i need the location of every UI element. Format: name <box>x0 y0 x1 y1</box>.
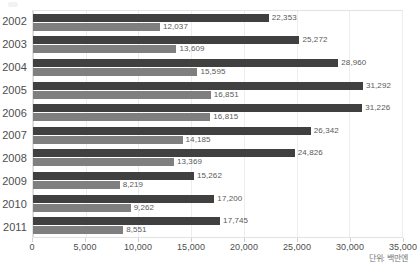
bar-value-label: 28,960 <box>341 59 366 67</box>
value-tick-label: 0 <box>29 242 34 252</box>
bar-row: 22,353 <box>33 14 402 22</box>
bar <box>33 91 211 99</box>
bar-value-label: 12,037 <box>163 23 188 31</box>
bar-value-label: 24,826 <box>298 149 323 157</box>
bar-value-label: 31,226 <box>365 104 390 112</box>
bar <box>33 136 183 144</box>
bar <box>33 14 269 22</box>
bar-group: 22,35312,037 <box>33 11 402 34</box>
bar <box>33 23 160 31</box>
category-tick-label: 2003 <box>0 33 32 56</box>
bar-row: 14,185 <box>33 136 402 144</box>
bar-value-label: 25,272 <box>302 36 327 44</box>
bar-value-label: 31,292 <box>366 82 391 90</box>
bar-row: 9,262 <box>33 204 402 212</box>
bar <box>33 127 311 135</box>
bar-group: 26,34214,185 <box>33 124 402 147</box>
bar-group: 31,29216,851 <box>33 79 402 102</box>
value-tick-label: 30,000 <box>336 242 364 252</box>
bar-value-label: 9,262 <box>134 204 155 212</box>
bar <box>33 68 197 76</box>
bar-value-label: 22,353 <box>272 14 297 22</box>
bar-value-label: 17,745 <box>223 217 248 225</box>
bar-row: 13,609 <box>33 45 402 53</box>
bar-row: 8,551 <box>33 226 402 234</box>
bar-row: 31,226 <box>33 104 402 112</box>
category-tick-label: 2005 <box>0 78 32 101</box>
bar-row: 16,815 <box>33 113 402 121</box>
bar-row: 25,272 <box>33 36 402 44</box>
value-tick-label: 5,000 <box>73 242 96 252</box>
bar-row: 15,262 <box>33 172 402 180</box>
category-tick-label: 2009 <box>0 170 32 193</box>
bar-row: 31,292 <box>33 82 402 90</box>
value-tick-label: 25,000 <box>283 242 311 252</box>
bar-group: 31,22616,815 <box>33 101 402 124</box>
bar-row: 15,595 <box>33 68 402 76</box>
bar-groups: 22,35312,03725,27213,60928,96015,59531,2… <box>33 11 402 237</box>
bar-row: 8,219 <box>33 181 402 189</box>
bar <box>33 59 338 67</box>
bar-row: 13,369 <box>33 158 402 166</box>
bar-group: 25,27213,609 <box>33 34 402 57</box>
value-tick-label: 15,000 <box>177 242 205 252</box>
value-tick-label: 10,000 <box>124 242 152 252</box>
bar-value-label: 13,609 <box>179 45 204 53</box>
bar-row: 17,200 <box>33 195 402 203</box>
value-tick-label: 35,000 <box>389 242 417 252</box>
bar-value-label: 13,369 <box>177 158 202 166</box>
bar-value-label: 17,200 <box>217 195 242 203</box>
bar-value-label: 14,185 <box>186 136 211 144</box>
bar <box>33 195 214 203</box>
bar-group: 28,96015,595 <box>33 56 402 79</box>
category-tick-label: 2007 <box>0 124 32 147</box>
bar <box>33 172 194 180</box>
bar <box>33 217 220 225</box>
bar <box>33 204 131 212</box>
bar <box>33 36 299 44</box>
bar-row: 12,037 <box>33 23 402 31</box>
bar-value-label: 15,595 <box>200 68 225 76</box>
value-axis: 05,00010,00015,00020,00025,00030,00035,0… <box>32 238 403 254</box>
bar-row: 28,960 <box>33 59 402 67</box>
bar-row: 26,342 <box>33 127 402 135</box>
bar <box>33 45 176 53</box>
scan-artifact <box>8 2 18 7</box>
category-tick-label: 2011 <box>0 215 32 238</box>
bar-value-label: 26,342 <box>314 127 339 135</box>
bar-value-label: 16,851 <box>214 91 239 99</box>
gridline <box>402 11 403 237</box>
bar-group: 17,2009,262 <box>33 192 402 215</box>
bar-row: 16,851 <box>33 91 402 99</box>
value-tick-label: 20,000 <box>230 242 258 252</box>
bar-value-label: 8,551 <box>126 226 147 234</box>
bar <box>33 226 123 234</box>
bar-group: 17,7458,551 <box>33 214 402 237</box>
bar-value-label: 15,262 <box>197 172 222 180</box>
bar-row: 24,826 <box>33 149 402 157</box>
bar-value-label: 8,219 <box>123 181 144 189</box>
bar <box>33 181 120 189</box>
category-tick-label: 2004 <box>0 56 32 79</box>
bar-group: 24,82613,369 <box>33 147 402 170</box>
category-tick-label: 2010 <box>0 192 32 215</box>
category-tick-label: 2006 <box>0 101 32 124</box>
bar-group: 15,2628,219 <box>33 169 402 192</box>
category-tick-label: 2002 <box>0 10 32 33</box>
category-axis: 2002200320042005200620072008200920102011 <box>0 10 32 238</box>
bar <box>33 158 174 166</box>
category-tick-label: 2008 <box>0 147 32 170</box>
bar-row: 17,745 <box>33 217 402 225</box>
bar-value-label: 16,815 <box>213 113 238 121</box>
bar <box>33 113 210 121</box>
bar <box>33 149 295 157</box>
plot-area: 22,35312,03725,27213,60928,96015,59531,2… <box>32 10 403 238</box>
bar <box>33 104 362 112</box>
bar <box>33 82 363 90</box>
unit-annotation: 단위: 백만엔 <box>369 252 408 263</box>
